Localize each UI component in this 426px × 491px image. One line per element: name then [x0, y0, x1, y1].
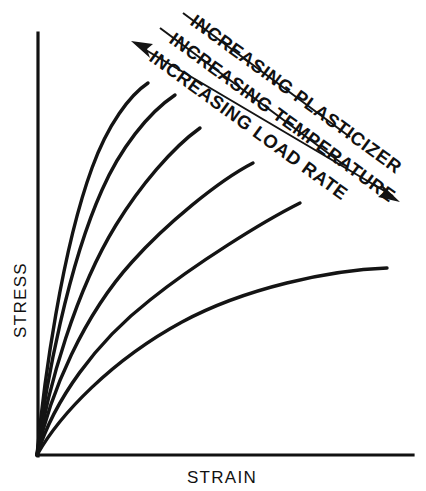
y-axis-label: STRESS	[11, 262, 30, 338]
chart-canvas: INCREASING PLASTICIZER INCREASING TEMPER…	[0, 0, 426, 491]
stress-strain-figure: INCREASING PLASTICIZER INCREASING TEMPER…	[0, 0, 426, 491]
x-axis-label: STRAIN	[187, 468, 257, 487]
